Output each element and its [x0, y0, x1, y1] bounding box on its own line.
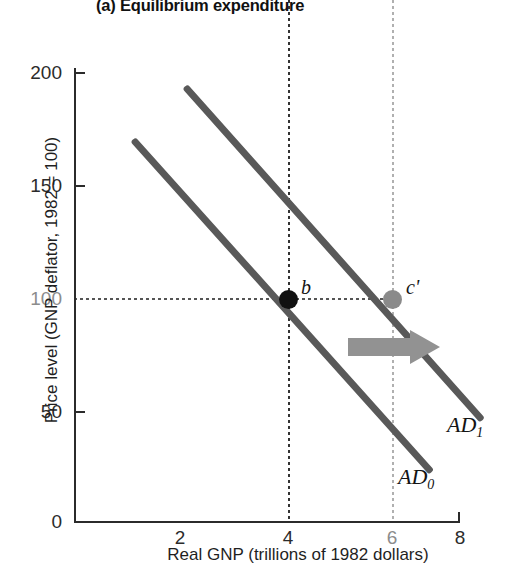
x-tick-8	[458, 512, 460, 522]
shift-arrow-icon	[348, 330, 440, 364]
ad1-label-text: AD	[447, 412, 476, 437]
panel-title: (a) Equilibrium expenditure	[96, 0, 304, 15]
y-axis-title: Price level (GNP deflator, 1982 = 100)	[42, 70, 62, 490]
point-c-prime-marker	[383, 290, 402, 309]
ad1-label-subscript: 1	[476, 425, 483, 440]
point-b-label: b	[301, 277, 311, 297]
ad1-label: AD1	[447, 414, 483, 440]
y-tick-200	[76, 72, 85, 74]
vertical-guide-4	[288, 0, 290, 523]
x-axis-line	[74, 521, 460, 523]
y-tick-label-0: 0	[6, 512, 62, 531]
y-tick-50	[76, 411, 85, 413]
y-tick-150	[76, 185, 85, 187]
x-axis-title: Real GNP (trillions of 1982 dollars)	[74, 545, 522, 565]
ad0-label-text: AD	[398, 464, 427, 489]
point-b-marker	[279, 290, 298, 309]
y-axis-line	[74, 68, 76, 523]
ad0-label: AD0	[398, 466, 434, 492]
point-c-prime-label: c'	[406, 277, 419, 297]
horizontal-guide-100	[74, 298, 394, 300]
chart-figure: (a) Equilibrium expenditure 200 150 100 …	[0, 0, 522, 571]
ad1-curve	[182, 84, 485, 422]
ad0-label-subscript: 0	[427, 477, 434, 492]
vertical-guide-6	[392, 0, 394, 523]
